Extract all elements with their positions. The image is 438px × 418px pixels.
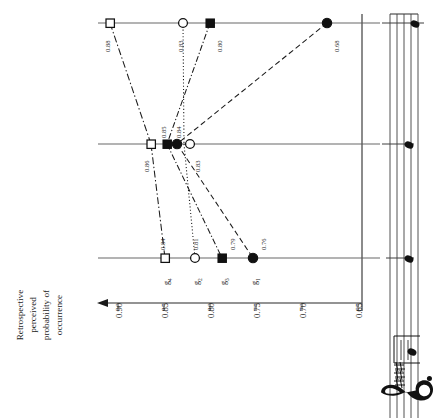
point-label-g1-top: 0.68	[333, 40, 340, 52]
point-label-g2-middle: 0.83	[194, 160, 201, 172]
point-label-g4-middle: 0.86	[143, 160, 150, 172]
gridlines	[98, 23, 380, 258]
point-label-g2-bottom: 0.81	[192, 238, 199, 250]
marker-g4-top[interactable]	[106, 19, 114, 27]
value-axis	[97, 299, 362, 311]
series-label-g3: g3	[219, 278, 230, 285]
series-label-g2-sub: 2	[197, 278, 203, 281]
point-label-g1-bottom: 0.76	[260, 238, 267, 250]
tick-label-0: 0.90	[114, 303, 124, 318]
note-head-3[interactable]	[403, 254, 414, 264]
treble-clef-icon	[381, 376, 433, 401]
series-label-g4: g4	[162, 278, 173, 285]
music-staff	[381, 14, 433, 418]
point-label-g4-bottom: 0.84	[159, 238, 166, 250]
tick-label-4: 0.70	[298, 303, 308, 318]
axis-title-text: Retrospective perceived probability of o…	[14, 258, 66, 372]
figure-canvas: Retrospective perceived probability of o…	[0, 0, 438, 418]
marker-g2-bottom[interactable]	[191, 254, 200, 263]
marker-g3-middle[interactable]	[163, 140, 171, 148]
series-label-g1-sub: 1	[255, 278, 261, 281]
series-label-g1: g1	[250, 278, 261, 285]
series-line-g4	[110, 23, 165, 258]
marker-g2-middle[interactable]	[186, 140, 195, 149]
tick-label-1: 0.85	[160, 303, 170, 318]
staff-beam-bracket	[394, 336, 420, 363]
note-head-2[interactable]	[403, 140, 414, 150]
point-label-g2-top: 0.83	[177, 40, 184, 52]
tick-label-3: 0.75	[252, 303, 262, 318]
point-label-g1-middle: 0.84	[175, 126, 182, 138]
marker-g4-bottom[interactable]	[161, 254, 169, 262]
series-label-g3-sub: 3	[224, 278, 230, 281]
marker-g4-middle[interactable]	[147, 140, 155, 148]
point-label-g3-top: 0.80	[216, 40, 223, 52]
point-label-g3-bottom: 0.79	[229, 238, 236, 250]
axis-title: Retrospective perceived probability of o…	[14, 258, 134, 378]
markers-middle-row	[147, 139, 194, 148]
point-label-g3-middle: 0.85	[160, 126, 167, 138]
series-line-g1	[177, 23, 327, 258]
series-label-g4-sub: 4	[167, 278, 173, 281]
key-signature-sharps-icon	[394, 362, 405, 388]
point-label-g4-top: 0.88	[104, 40, 111, 52]
tick-label-2: 0.80	[206, 303, 216, 318]
marker-g2-top[interactable]	[179, 19, 188, 28]
marker-g1-bottom[interactable]	[248, 253, 257, 262]
tick-label-5: 0.65	[354, 303, 364, 318]
marker-g3-bottom[interactable]	[218, 254, 226, 262]
marker-g1-top[interactable]	[322, 18, 331, 27]
marker-g1-middle[interactable]	[172, 139, 181, 148]
marker-g3-top[interactable]	[206, 19, 214, 27]
series-label-g2: g2	[192, 278, 203, 285]
